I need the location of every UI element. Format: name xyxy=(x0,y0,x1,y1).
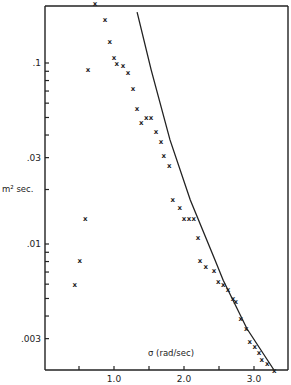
data-point: x xyxy=(178,204,183,212)
data-point: x xyxy=(115,60,120,68)
data-point: x xyxy=(83,215,88,223)
y-axis-label: m² sec. xyxy=(2,184,33,194)
data-point: x xyxy=(212,267,217,275)
data-point: x xyxy=(259,356,264,364)
data-point: x xyxy=(238,315,243,323)
x-tick-label: 3.0 xyxy=(247,374,262,384)
data-point: x xyxy=(135,105,140,113)
x-tick-label: 2.0 xyxy=(177,374,192,384)
data-point: x xyxy=(103,16,108,24)
data-point: x xyxy=(93,0,98,8)
data-point: x xyxy=(196,234,201,242)
scatter-points: xxxxxxxxxxxxxxxxxxxxxxxxxxxxxxxxxxxxxxxx… xyxy=(73,0,277,375)
x-axis-label: σ (rad/sec) xyxy=(148,348,194,358)
data-point: x xyxy=(126,69,131,77)
data-point: x xyxy=(167,162,172,170)
y-tick-label: .01 xyxy=(27,239,41,249)
x-axis-ticks: 1.02.03.0 xyxy=(79,366,261,384)
data-point: x xyxy=(265,360,270,368)
data-point: x xyxy=(149,114,154,122)
data-point: x xyxy=(203,263,208,271)
data-point: x xyxy=(73,281,78,289)
data-point: x xyxy=(244,325,249,333)
chart: 1.02.03.0 .1.03.01.003 σ (rad/sec) m² se… xyxy=(0,0,291,385)
y-tick-label: .003 xyxy=(21,334,41,344)
data-point: x xyxy=(131,85,136,93)
data-point: x xyxy=(161,152,166,160)
x-tick-label: 1.0 xyxy=(107,374,122,384)
data-point: x xyxy=(198,257,203,265)
data-point: x xyxy=(108,38,113,46)
data-point: x xyxy=(272,367,277,375)
plot-frame xyxy=(45,6,288,370)
data-point: x xyxy=(226,286,231,294)
y-tick-label: .1 xyxy=(32,58,41,68)
data-point: x xyxy=(86,66,91,74)
y-tick-label: .03 xyxy=(27,153,41,163)
data-point: x xyxy=(77,257,82,265)
data-point: x xyxy=(154,128,159,136)
data-point: x xyxy=(171,196,176,204)
theory-curve xyxy=(137,12,274,370)
data-point: x xyxy=(159,138,164,146)
data-point: x xyxy=(192,215,197,223)
data-point: x xyxy=(234,298,239,306)
theory-curve-group xyxy=(137,12,274,370)
